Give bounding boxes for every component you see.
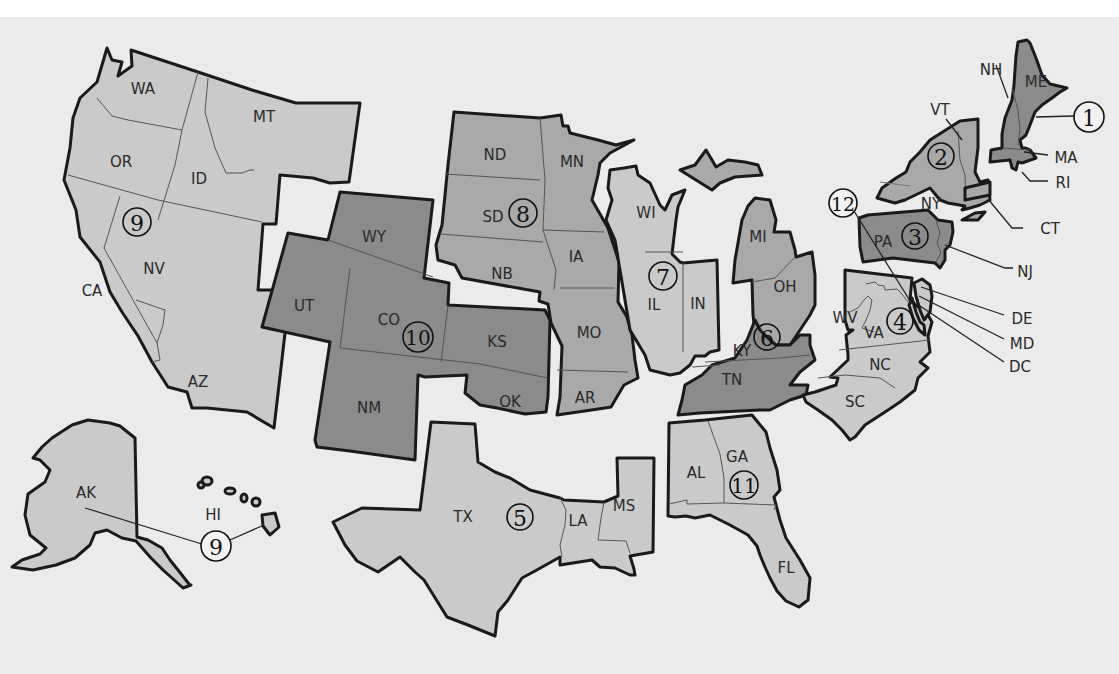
state-label-or: OR	[110, 153, 132, 171]
state-label-nv: NV	[143, 260, 165, 278]
state-label-wy: WY	[362, 228, 387, 246]
state-label-vt: VT	[930, 101, 950, 119]
state-label-in: IN	[690, 295, 706, 313]
state-label-ky: KY	[733, 342, 752, 360]
district-marker-10[interactable]: 10	[403, 322, 433, 352]
state-label-me: ME	[1025, 73, 1047, 91]
state-label-hi: HI	[205, 506, 221, 524]
state-label-wi: WI	[636, 204, 655, 222]
svg-text:10: 10	[405, 326, 430, 350]
district-marker-11[interactable]: 11	[730, 471, 758, 499]
svg-text:9: 9	[209, 535, 223, 560]
state-label-co: CO	[378, 311, 400, 329]
state-label-il: IL	[648, 296, 661, 314]
region-southeast	[668, 415, 810, 607]
state-label-ms: MS	[613, 497, 635, 515]
district-marker-9-alaska-hawaii[interactable]: 9	[201, 531, 231, 561]
state-label-sc: SC	[845, 393, 865, 411]
region-alaska-hawaii	[12, 420, 279, 588]
state-label-la: LA	[569, 512, 589, 530]
svg-text:12: 12	[831, 193, 855, 215]
state-label-mi: MI	[749, 228, 766, 246]
district-marker-12[interactable]: 12	[829, 189, 857, 217]
state-label-id: ID	[191, 170, 207, 188]
state-label-ca: CA	[82, 282, 103, 300]
state-label-oh: OH	[773, 278, 796, 296]
state-label-tn: TN	[721, 371, 742, 389]
state-label-ny: NY	[921, 195, 942, 213]
state-label-va: VA	[864, 324, 884, 342]
state-label-mn: MN	[560, 153, 584, 171]
state-label-nj: NJ	[1017, 263, 1033, 281]
state-label-ar: AR	[575, 389, 596, 407]
state-label-ri: RI	[1056, 174, 1071, 192]
state-label-pa: PA	[874, 233, 893, 251]
state-label-ak: AK	[76, 484, 97, 502]
state-label-mo: MO	[577, 324, 602, 342]
state-label-ct: CT	[1040, 220, 1060, 238]
state-label-ma: MA	[1054, 149, 1078, 167]
svg-text:7: 7	[656, 265, 670, 290]
svg-text:6: 6	[760, 326, 774, 351]
svg-text:8: 8	[516, 202, 530, 227]
state-label-az: AZ	[188, 373, 209, 391]
svg-text:5: 5	[513, 506, 527, 531]
state-label-ia: IA	[569, 248, 584, 266]
state-label-md: MD	[1010, 335, 1035, 353]
state-label-tx: TX	[452, 508, 472, 526]
state-label-mt: MT	[253, 108, 276, 126]
state-label-nb: NB	[491, 265, 513, 283]
state-label-de: DE	[1011, 310, 1032, 328]
state-label-sd: SD	[482, 208, 503, 226]
svg-text:4: 4	[893, 310, 907, 335]
district-marker-1[interactable]: 1	[1074, 102, 1104, 132]
state-label-ks: KS	[487, 333, 506, 351]
region-mid-atlantic	[803, 270, 932, 440]
svg-text:1: 1	[1082, 106, 1096, 131]
federal-reserve-map: WA MT OR ID NV CA AZ AK HI WY UT CO KS N…	[0, 0, 1119, 674]
state-label-dc: DC	[1009, 358, 1031, 376]
svg-text:3: 3	[908, 225, 922, 250]
state-label-wa: WA	[131, 80, 156, 98]
state-label-fl: FL	[778, 559, 796, 577]
state-label-ga: GA	[726, 448, 749, 466]
state-label-ok: OK	[499, 393, 522, 411]
svg-text:11: 11	[731, 474, 756, 498]
state-label-ut: UT	[294, 297, 315, 315]
state-label-wv: WV	[832, 309, 858, 327]
state-label-nc: NC	[869, 356, 891, 374]
state-label-nd: ND	[484, 146, 507, 164]
state-label-nh: NH	[980, 61, 1003, 79]
svg-text:9: 9	[130, 211, 144, 236]
state-label-al: AL	[687, 464, 706, 482]
state-label-nm: NM	[357, 399, 381, 417]
svg-text:2: 2	[934, 145, 948, 170]
